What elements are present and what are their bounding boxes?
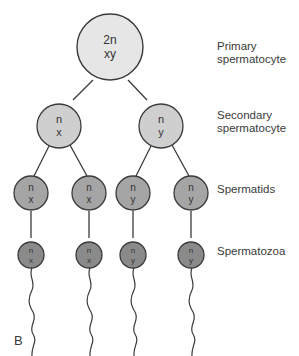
svg-text:xy: xy bbox=[104, 47, 116, 61]
stage-label-primary-line1: Primary bbox=[217, 40, 286, 53]
secondary-spermatocyte-cell-2: n y bbox=[139, 104, 183, 148]
svg-text:n: n bbox=[130, 182, 136, 193]
spermatid-cell-4: n y bbox=[174, 176, 208, 210]
stage-label-spermatozoa: Spermatozoa bbox=[217, 245, 285, 258]
secondary-spermatocyte-cell-1: n x bbox=[37, 104, 81, 148]
svg-text:n: n bbox=[189, 246, 193, 255]
spermatid-cell-2: n x bbox=[72, 176, 106, 210]
stage-label-primary-line2: spermatocyte bbox=[217, 53, 286, 66]
stage-label-secondary-line1: Secondary bbox=[217, 109, 286, 122]
spermatozoon-cell-4: n y bbox=[178, 242, 204, 268]
flagellum-1 bbox=[29, 268, 35, 356]
svg-text:y: y bbox=[131, 194, 136, 205]
svg-text:x: x bbox=[29, 256, 33, 265]
spermatozoon-cell-3: n y bbox=[120, 242, 146, 268]
svg-text:y: y bbox=[131, 256, 135, 265]
svg-text:n: n bbox=[158, 113, 164, 125]
svg-text:x: x bbox=[87, 194, 92, 205]
stage-label-secondary-line2: spermatocyte bbox=[217, 122, 286, 135]
svg-text:n: n bbox=[87, 246, 91, 255]
connector-lines bbox=[31, 80, 191, 238]
flagellum-4 bbox=[189, 268, 195, 356]
svg-text:n: n bbox=[86, 182, 92, 193]
svg-text:2n: 2n bbox=[103, 33, 116, 47]
svg-text:x: x bbox=[29, 194, 34, 205]
stage-label-spermatids: Spermatids bbox=[217, 183, 275, 196]
stage-label-primary: Primary spermatocyte bbox=[217, 40, 286, 66]
svg-text:n: n bbox=[28, 182, 34, 193]
svg-text:y: y bbox=[189, 194, 194, 205]
primary-spermatocyte-cell: 2n xy bbox=[77, 14, 143, 80]
stage-label-spermatozoa-line1: Spermatozoa bbox=[217, 245, 285, 258]
svg-text:n: n bbox=[131, 246, 135, 255]
svg-text:n: n bbox=[56, 113, 62, 125]
panel-letter: B bbox=[14, 333, 23, 348]
stage-label-spermatids-line1: Spermatids bbox=[217, 183, 275, 196]
spermatid-cell-3: n y bbox=[116, 176, 150, 210]
svg-text:x: x bbox=[87, 256, 91, 265]
spermatozoon-cell-1: n x bbox=[18, 242, 44, 268]
svg-text:n: n bbox=[29, 246, 33, 255]
svg-text:x: x bbox=[56, 126, 62, 138]
flagellum-2 bbox=[87, 268, 93, 356]
flagellum-3 bbox=[131, 268, 137, 356]
svg-text:y: y bbox=[189, 256, 193, 265]
spermatid-cell-1: n x bbox=[14, 176, 48, 210]
svg-text:y: y bbox=[158, 126, 164, 138]
svg-text:n: n bbox=[188, 182, 194, 193]
stage-label-secondary: Secondary spermatocyte bbox=[217, 109, 286, 135]
spermatozoon-cell-2: n x bbox=[76, 242, 102, 268]
flagella bbox=[29, 268, 195, 356]
